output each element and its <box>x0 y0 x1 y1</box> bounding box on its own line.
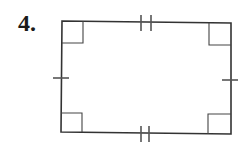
rectangle-outline <box>61 21 231 134</box>
right-angle-mark-bottom-right <box>208 114 231 134</box>
right-angle-mark-top-right <box>209 23 231 45</box>
rectangle-diagram <box>0 0 251 159</box>
right-angle-mark-top-left <box>62 21 83 43</box>
right-angle-mark-bottom-left <box>61 113 82 132</box>
